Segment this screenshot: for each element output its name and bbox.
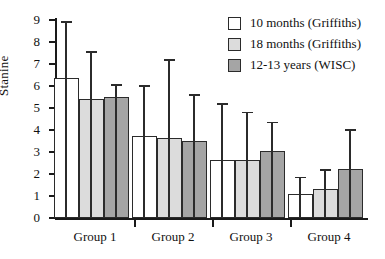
error-bar	[143, 86, 145, 218]
error-bar	[246, 112, 248, 218]
x-axis-label: Group 4	[284, 229, 374, 245]
error-bar-cap	[164, 59, 175, 61]
error-bar	[349, 130, 351, 218]
x-axis-label: Group 1	[50, 229, 140, 245]
y-axis-tick-label: 2	[26, 169, 40, 179]
y-axis-tick-label: 4	[26, 125, 40, 135]
error-bar-cap	[295, 177, 306, 179]
y-axis-tick-label: 8	[26, 37, 40, 47]
error-bar-cap	[267, 122, 278, 124]
error-bar-cap	[139, 85, 150, 87]
error-bar	[221, 104, 223, 218]
error-bar	[299, 177, 301, 218]
error-bar-cap	[86, 51, 97, 53]
x-axis-separator	[290, 220, 292, 227]
error-bar-cap	[61, 21, 72, 23]
error-bar	[65, 22, 67, 218]
legend-item: 12-13 years (WISC)	[228, 56, 361, 74]
y-axis-tick-label: 0	[26, 213, 40, 223]
error-bar-cap	[242, 112, 253, 114]
legend-label: 12-13 years (WISC)	[250, 57, 355, 73]
error-bar	[271, 122, 273, 218]
error-bar	[324, 170, 326, 218]
error-bar-cap	[189, 94, 200, 96]
x-axis-separator	[212, 220, 214, 227]
bar-group	[54, 20, 129, 218]
y-axis-tick-label: 9	[26, 15, 40, 25]
y-axis-label: Stanine	[0, 56, 12, 96]
x-axis-separator	[134, 220, 136, 227]
x-axis-label: Group 2	[128, 229, 218, 245]
legend-swatch-white	[228, 17, 241, 30]
error-bar-cap	[345, 129, 356, 131]
error-bar	[90, 52, 92, 218]
legend-item: 10 months (Griffiths)	[228, 14, 361, 32]
error-bar	[115, 85, 117, 218]
legend-swatch-dark-gray	[228, 59, 241, 72]
error-bar	[168, 60, 170, 218]
y-axis-tick-label: 1	[26, 191, 40, 201]
chart-legend: 10 months (Griffiths) 18 months (Griffit…	[228, 14, 361, 77]
error-bar-cap	[217, 103, 228, 105]
x-axis-label: Group 3	[206, 229, 296, 245]
legend-swatch-light-gray	[228, 38, 241, 51]
bar-group	[132, 20, 207, 218]
stanine-bar-chart: Stanine 0123456789 Group 1Group 2Group 3…	[0, 0, 385, 259]
legend-label: 18 months (Griffiths)	[250, 36, 361, 52]
y-axis-tick-label: 6	[26, 81, 40, 91]
legend-item: 18 months (Griffiths)	[228, 35, 361, 53]
y-axis-tick-label: 3	[26, 147, 40, 157]
legend-label: 10 months (Griffiths)	[250, 15, 361, 31]
y-axis-tick-label: 5	[26, 103, 40, 113]
error-bar-cap	[320, 169, 331, 171]
error-bar-cap	[111, 84, 122, 86]
error-bar	[193, 95, 195, 218]
y-axis-tick-label: 7	[26, 59, 40, 69]
